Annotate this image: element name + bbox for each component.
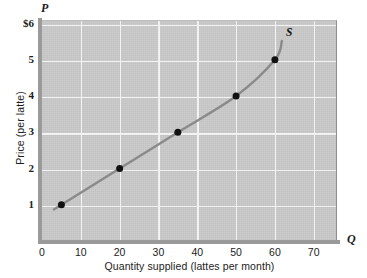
gridline-vertical — [236, 21, 237, 241]
x-axis-line — [38, 240, 340, 244]
curve-label-s: S — [286, 26, 292, 38]
gridline-horizontal — [42, 61, 336, 62]
gridline-horizontal — [42, 133, 336, 134]
gridline-horizontal — [42, 97, 336, 98]
y-tick-label: $6 — [0, 17, 34, 29]
y-axis-title: Price (per latte) — [14, 58, 26, 198]
gridline-horizontal — [42, 206, 336, 207]
plot-area — [42, 20, 337, 241]
x-tick-label: 20 — [105, 246, 135, 258]
y-axis-symbol: P — [41, 1, 48, 16]
gridline-vertical — [158, 21, 159, 241]
x-tick-label: 10 — [66, 246, 96, 258]
x-tick-label: 30 — [143, 246, 173, 258]
x-tick-label: 50 — [221, 246, 251, 258]
x-tick-label: 60 — [260, 246, 290, 258]
x-tick-label: 40 — [182, 246, 212, 258]
gridline-horizontal — [42, 170, 336, 171]
gridline-vertical — [81, 21, 82, 241]
plot-texture — [42, 21, 336, 241]
y-axis-line — [38, 18, 42, 244]
gridline-vertical — [120, 21, 121, 241]
gridline-vertical — [314, 21, 315, 241]
y-tick-label: 1 — [0, 198, 34, 210]
gridline-vertical — [197, 21, 198, 241]
x-tick-label: 0 — [27, 246, 57, 258]
x-tick-label: 70 — [299, 246, 329, 258]
x-axis-title: Quantity supplied (lattes per month) — [42, 260, 337, 272]
x-axis-symbol: Q — [347, 232, 356, 247]
gridline-vertical — [275, 21, 276, 241]
supply-curve-figure: P Q S 12345$6 010203040506070 Quantity s… — [0, 0, 367, 278]
